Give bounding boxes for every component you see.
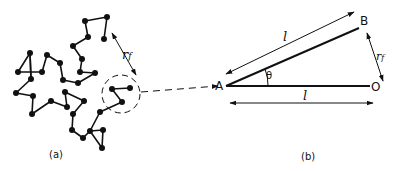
panel-a-label: (a): [49, 150, 63, 160]
rf-subscript: f: [128, 51, 131, 61]
chain-bead: [48, 98, 54, 104]
chain-bead: [85, 34, 91, 40]
chain-bead: [15, 69, 21, 75]
chain-bead: [127, 85, 133, 91]
chain-bead: [60, 77, 66, 83]
rf-label-a: rf: [122, 46, 132, 62]
chain-bead: [101, 36, 107, 42]
chain-bead: [87, 128, 93, 134]
chain-bead: [82, 18, 88, 24]
chain-bead: [70, 111, 76, 117]
chain-bead: [64, 104, 70, 110]
length-label-upper: l: [283, 30, 287, 43]
chain-bead: [44, 52, 50, 58]
chain-bead: [80, 135, 86, 141]
chain-bead: [29, 111, 35, 117]
chain-bead: [27, 50, 33, 56]
rf-subscript-b: f: [381, 53, 384, 62]
chain-bead: [30, 93, 36, 99]
chain-bead: [119, 99, 125, 105]
chain-bead: [100, 127, 106, 133]
point-O-label: O: [371, 81, 380, 93]
angle-theta-label: θ: [266, 71, 272, 81]
panel-b-label: (b): [301, 152, 315, 162]
zoom-dashed-arrow: [141, 86, 218, 92]
chain-bead: [97, 109, 103, 115]
chain-bead: [70, 43, 76, 49]
chain-bead: [57, 60, 63, 66]
point-B-label: B: [360, 15, 368, 27]
end-segment-circle: [102, 75, 140, 113]
rf-label-b: rf: [376, 47, 384, 63]
chain-bead: [75, 80, 81, 86]
chain-bead: [77, 69, 83, 75]
polymer-chain-diagram: rf (a) A B O θ l l rf (b): [0, 0, 395, 171]
chain-bead: [81, 98, 87, 104]
length-arrow-upper: [226, 12, 354, 74]
chain-bead: [39, 69, 45, 75]
chain-bead: [104, 14, 110, 20]
chain-bead: [99, 145, 105, 151]
chain-bead: [109, 86, 115, 92]
chain-bead: [69, 127, 75, 133]
length-label-lower: l: [303, 89, 307, 102]
chain-bead: [62, 89, 68, 95]
chain-bead: [28, 76, 34, 82]
point-A-label: A: [215, 80, 223, 92]
chain-bead: [13, 90, 19, 96]
diagram-canvas: [0, 0, 395, 171]
segment-AB: [226, 28, 359, 86]
chain-bead: [92, 70, 98, 76]
chain-bead: [79, 56, 85, 62]
